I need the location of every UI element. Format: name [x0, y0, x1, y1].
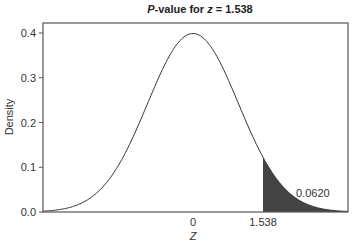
y-tick-label: 0.4 [21, 27, 36, 39]
y-axis-ticks: 0.00.10.20.30.4 [21, 27, 43, 218]
x-axis-label: Z [189, 230, 198, 242]
x-axis-ticks: 01.538 [190, 216, 277, 228]
p-value-annotation: 0.0620 [296, 187, 330, 199]
x-tick-label: 1.538 [249, 216, 277, 228]
chart-title: P-value for z = 1.538 [147, 3, 253, 15]
plot-area [43, 23, 348, 212]
x-tick-label: 0 [190, 216, 196, 228]
p-value-chart: P-value for z = 1.538 0.00.10.20.30.4 01… [0, 0, 357, 247]
y-tick-label: 0.1 [21, 161, 36, 173]
y-tick-label: 0.3 [21, 72, 36, 84]
density-curve [43, 33, 348, 211]
y-axis-label: Density [3, 98, 15, 135]
plot-frame [43, 23, 348, 212]
y-tick-label: 0.0 [21, 206, 36, 218]
y-tick-label: 0.2 [21, 117, 36, 129]
